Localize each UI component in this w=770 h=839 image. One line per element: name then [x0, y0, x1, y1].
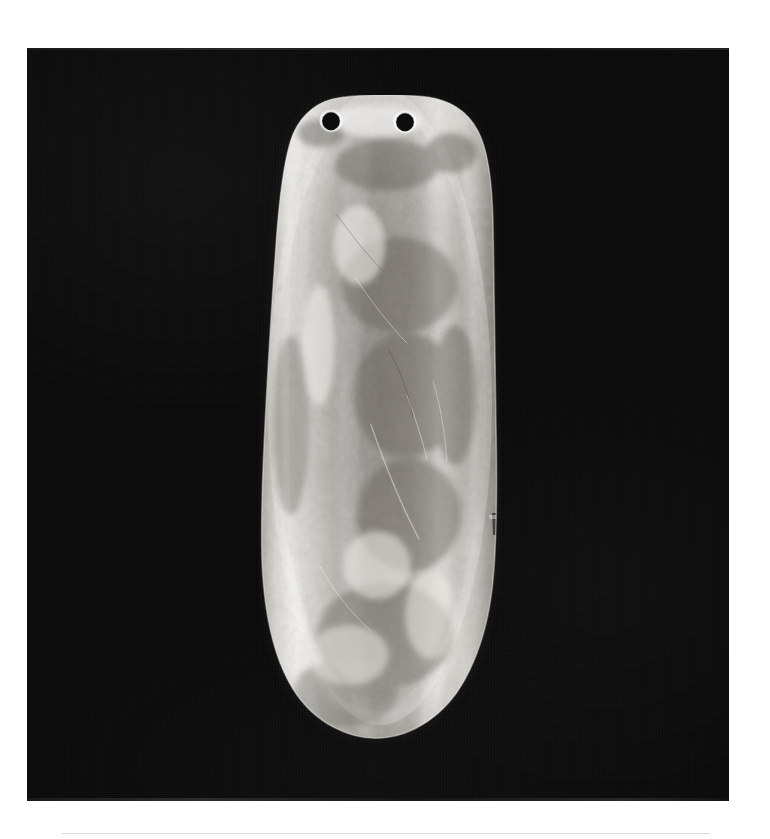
- photo-top-edge: [27, 48, 729, 50]
- artifact-photograph: [27, 48, 729, 801]
- page-footer-rule: [62, 833, 710, 834]
- page-canvas: [0, 0, 770, 839]
- artifact-body: [259, 95, 501, 743]
- artifact-object: [259, 95, 501, 743]
- suspension-hole-right: [394, 111, 417, 134]
- artifact-illustration: [259, 95, 501, 743]
- photo-bottom-edge: [27, 798, 729, 801]
- suspension-hole-left: [320, 110, 343, 133]
